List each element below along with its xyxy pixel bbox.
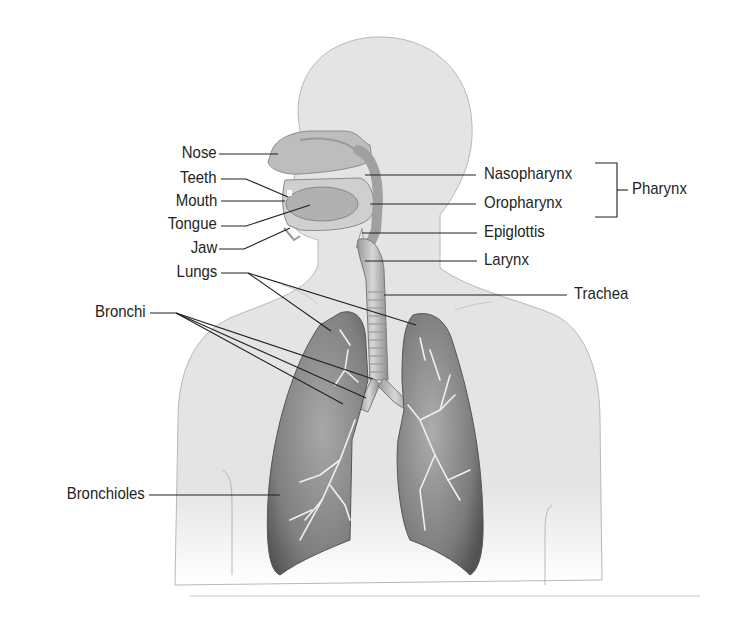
label-nasopharynx: Nasopharynx	[484, 164, 572, 184]
label-lungs: Lungs	[176, 262, 217, 282]
pharynx-bracket	[595, 163, 617, 217]
leader-teeth	[221, 179, 288, 197]
label-bronchi: Bronchi	[95, 302, 146, 322]
label-trachea: Trachea	[574, 284, 628, 304]
teeth	[287, 190, 292, 196]
leader-jaw	[219, 228, 290, 249]
label-epiglottis: Epiglottis	[484, 222, 545, 242]
label-nose: Nose	[182, 143, 217, 163]
label-jaw: Jaw	[190, 238, 217, 258]
label-bronchioles: Bronchioles	[67, 484, 145, 504]
tongue	[286, 187, 358, 221]
label-oropharynx: Oropharynx	[484, 193, 562, 213]
respiratory-system-diagram: Nose Teeth Mouth Tongue Jaw Lungs Bronch…	[0, 0, 739, 626]
label-mouth: Mouth	[175, 191, 217, 211]
label-larynx: Larynx	[484, 250, 529, 270]
label-pharynx: Pharynx	[632, 179, 687, 199]
label-teeth: Teeth	[180, 168, 217, 188]
label-tongue: Tongue	[168, 214, 217, 234]
